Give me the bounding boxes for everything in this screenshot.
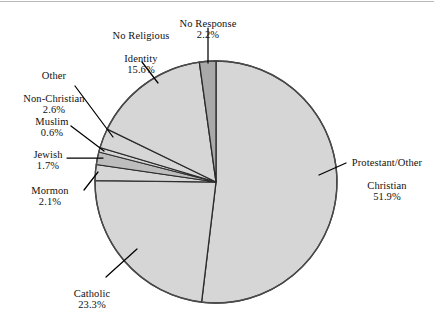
slice-label-jewish-pct: 1.7%	[4, 160, 92, 172]
slice-label-other-non-christian-line1: Other	[42, 70, 66, 81]
slice-label-jewish-line1: Jewish	[33, 149, 62, 160]
pie-slice-protestant-other-christian[interactable]	[202, 61, 337, 303]
slice-label-protestant-pct: 51.9%	[340, 191, 434, 203]
slice-label-mormon-pct: 2.1%	[6, 196, 94, 208]
pie-chart-figure: No Religious Identity 15.6% No Response …	[0, 0, 434, 329]
slice-label-no-religious-identity-line2: Identity	[124, 53, 157, 64]
pie-slices	[95, 61, 337, 303]
slice-label-no-response-line1: No Response	[180, 18, 237, 29]
slice-label-mormon-line1: Mormon	[31, 185, 68, 196]
slice-label-no-response-pct: 2.2%	[158, 29, 258, 41]
slice-label-catholic: Catholic 23.3%	[48, 276, 136, 322]
slice-label-catholic-pct: 23.3%	[48, 299, 136, 311]
slice-label-no-response: No Response 2.2%	[158, 6, 258, 52]
slice-label-catholic-line1: Catholic	[74, 288, 110, 299]
slice-label-muslim-line1: Muslim	[35, 116, 68, 127]
slice-label-mormon: Mormon 2.1%	[6, 173, 94, 219]
slice-label-other-non-christian-line2: Non-Christian	[23, 93, 84, 104]
slice-label-protestant-line2: Christian	[367, 180, 406, 191]
slice-label-protestant-other-christian: Protestant/Other Christian 51.9%	[340, 145, 434, 214]
slice-label-protestant-line1: Protestant/Other	[352, 157, 422, 168]
